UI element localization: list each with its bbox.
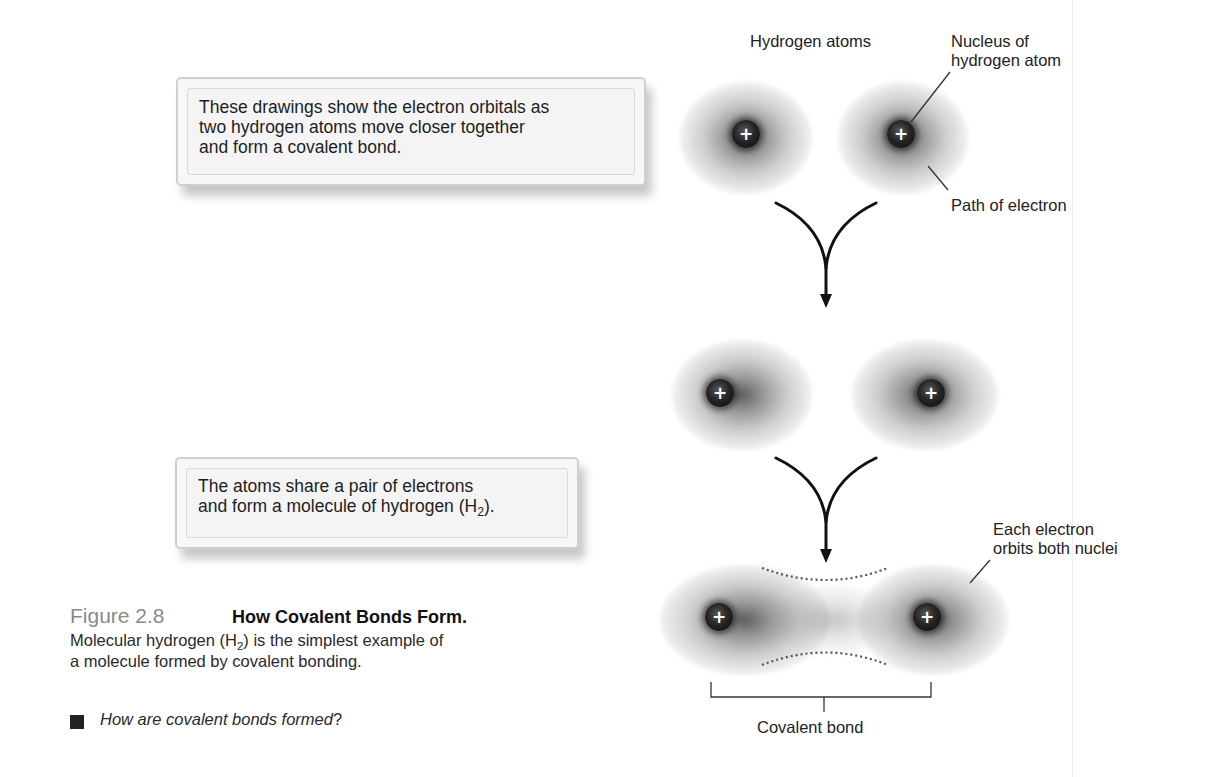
figure-caption-body: Molecular hydrogen (H2) is the simplest … — [70, 630, 443, 672]
review-question: How are covalent bonds formed? — [100, 710, 342, 729]
caption-line-2: a molecule formed by covalent bonding. — [70, 651, 443, 672]
shared-orbit-bottom — [762, 653, 888, 666]
covalent-bond-bracket — [711, 682, 931, 712]
review-question-mark: ? — [333, 710, 342, 728]
review-question-text: How are covalent bonds formed — [100, 710, 333, 728]
shared-orbit-top — [762, 568, 888, 580]
figure-title: How Covalent Bonds Form. — [232, 607, 467, 628]
leader-line-each-electron — [970, 560, 990, 583]
caption-line-1: Molecular hydrogen (H2) is the simplest … — [70, 630, 443, 651]
leader-line-nucleus — [911, 72, 950, 122]
merge-arrow-icon-1 — [776, 203, 876, 300]
caption-line-1-text: Molecular hydrogen (H — [70, 631, 237, 649]
merge-arrow-icon-2 — [776, 458, 876, 555]
figure-number: Figure 2.8 — [70, 604, 165, 628]
square-bullet-icon — [70, 715, 84, 729]
caption-line-1-end: ) is the simplest example of — [243, 631, 443, 649]
leader-line-path — [928, 166, 948, 190]
